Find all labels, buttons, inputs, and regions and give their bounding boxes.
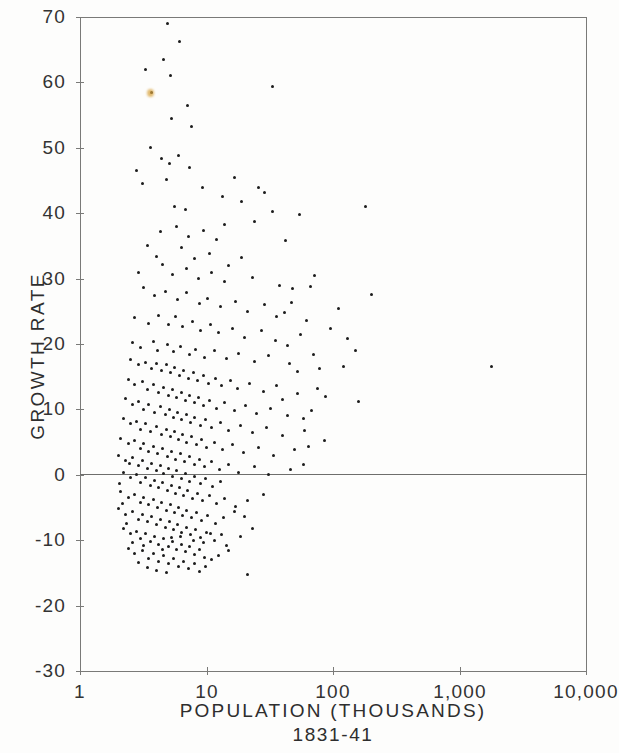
data-point [178, 374, 181, 377]
data-point [179, 535, 182, 538]
data-point [144, 361, 147, 364]
data-point [157, 391, 160, 394]
data-point [176, 523, 179, 526]
data-point [185, 291, 188, 294]
data-point [260, 329, 263, 332]
data-point [271, 210, 274, 213]
data-point [173, 205, 176, 208]
data-point [180, 531, 183, 534]
data-point [251, 276, 254, 279]
data-point [234, 300, 237, 303]
data-point [122, 527, 125, 530]
data-point [146, 566, 149, 569]
data-point [125, 522, 128, 525]
data-point [155, 469, 158, 472]
data-point [164, 413, 167, 416]
data-point [213, 441, 216, 444]
data-point [188, 166, 191, 169]
data-point [227, 429, 230, 432]
data-point [124, 459, 127, 462]
data-point [160, 369, 163, 372]
data-point [191, 320, 194, 323]
data-point [201, 499, 204, 502]
data-point [202, 229, 205, 232]
data-point [135, 420, 138, 423]
data-point [147, 322, 150, 325]
data-point [161, 447, 164, 450]
data-point [298, 213, 301, 216]
data-point [139, 501, 142, 504]
data-point [271, 85, 274, 88]
data-point [157, 486, 160, 489]
data-point [237, 352, 240, 355]
data-point [118, 482, 121, 485]
data-point [227, 549, 230, 552]
data-point [184, 208, 187, 211]
data-point [204, 418, 207, 421]
data-point [171, 273, 174, 276]
data-point [187, 235, 190, 238]
data-point [263, 191, 266, 194]
data-point [213, 539, 216, 542]
data-point [180, 391, 183, 394]
data-point [155, 362, 158, 365]
data-point [166, 455, 169, 458]
data-point [231, 327, 234, 330]
data-point [177, 506, 180, 509]
data-point [215, 407, 218, 410]
data-point [167, 467, 170, 470]
data-point [196, 379, 199, 382]
data-point [169, 435, 172, 438]
data-point [253, 220, 256, 223]
data-point [137, 363, 140, 366]
data-point [159, 464, 162, 467]
data-point [269, 407, 272, 410]
data-point [189, 533, 192, 536]
data-point [204, 477, 207, 480]
data-point [185, 267, 188, 270]
data-point [165, 178, 168, 181]
data-point [354, 349, 357, 352]
data-point [323, 439, 326, 442]
data-point [166, 22, 169, 25]
data-point [197, 396, 200, 399]
data-point [196, 492, 199, 495]
data-point [296, 370, 299, 373]
data-point [206, 297, 209, 300]
data-point [185, 441, 188, 444]
data-point [156, 506, 159, 509]
data-point [222, 516, 225, 519]
data-point [165, 509, 168, 512]
data-point [137, 518, 140, 521]
data-point [214, 377, 217, 380]
data-point [227, 463, 230, 466]
data-point [275, 315, 278, 318]
y-axis-tick [76, 148, 84, 149]
data-point [179, 345, 182, 348]
data-point [133, 552, 136, 555]
data-point [200, 519, 203, 522]
data-point [172, 416, 175, 419]
data-point [176, 298, 179, 301]
data-point [147, 503, 150, 506]
data-point [139, 447, 142, 450]
data-point [195, 511, 198, 514]
data-point [215, 238, 218, 241]
data-point [176, 411, 179, 414]
data-point [275, 384, 278, 387]
data-point [142, 286, 145, 289]
data-point [152, 383, 155, 386]
data-point [225, 357, 228, 360]
data-point [248, 382, 251, 385]
zero-reference-line [80, 474, 587, 475]
data-point [186, 489, 189, 492]
data-point [240, 200, 243, 203]
data-point [131, 456, 134, 459]
y-axis-tick [76, 540, 84, 541]
data-point [168, 162, 171, 165]
data-point [198, 548, 201, 551]
data-point [131, 541, 134, 544]
data-point [217, 331, 220, 334]
data-point [251, 431, 254, 434]
data-point [255, 412, 258, 415]
